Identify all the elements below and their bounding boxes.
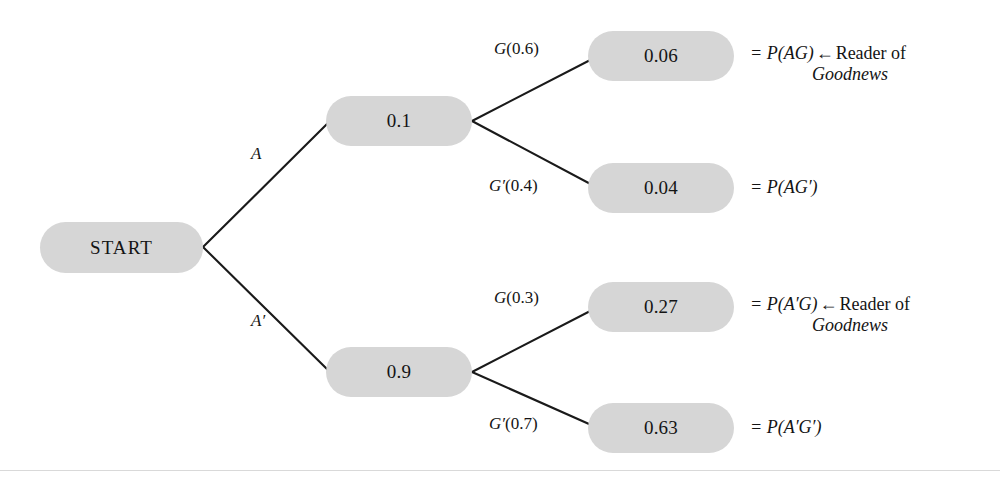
left-arrow-icon: ← [818, 294, 840, 314]
result-label-ag-equation: = P(AG) [750, 43, 814, 63]
edge-label-gprime-lower-prob: (0.7) [505, 414, 538, 433]
edge-aprime-to-aprimeg [472, 307, 598, 372]
result-label-ag-prime: = P(AG′) [750, 177, 818, 198]
edge-label-g-lower-symbol: G [494, 288, 506, 307]
edge-label-gprime-upper-symbol: G′ [489, 176, 505, 195]
edge-label-a-prime-symbol: A′ [251, 311, 265, 330]
node-aprime-g-prime: 0.63 [588, 403, 734, 453]
result-label-aprime-g-note: Reader of [840, 294, 910, 314]
edge-start-to-a [203, 121, 330, 247]
edge-label-a-symbol: A [251, 144, 261, 163]
result-label-aprime-g-prime-equation: = P(A′G′) [750, 417, 822, 437]
edge-label-g-upper-prob: (0.6) [506, 39, 539, 58]
edge-label-g-lower: G(0.3) [494, 288, 539, 308]
probability-tree-diagram: START 0.1 0.9 0.06 0.04 0.27 0.63 A A′ G… [0, 0, 1000, 484]
result-label-aprime-g-equation: = P(A′G) [750, 294, 818, 314]
node-start: START [40, 222, 203, 273]
edge-label-a-prime: A′ [251, 311, 265, 331]
edge-start-to-aprime [203, 247, 330, 372]
edge-label-gprime-lower-symbol: G′ [489, 414, 505, 433]
result-label-aprime-g: = P(A′G)←Reader of Goodnews [750, 294, 910, 336]
node-a: 0.1 [326, 96, 472, 146]
edge-label-gprime-upper: G′(0.4) [489, 176, 538, 196]
page-divider-rule [0, 470, 1000, 471]
node-a-prime: 0.9 [326, 347, 472, 397]
edge-label-gprime-upper-prob: (0.4) [505, 176, 538, 195]
result-label-ag: = P(AG)←Reader of Goodnews [750, 43, 906, 85]
result-label-ag-prime-equation: = P(AG′) [750, 177, 818, 197]
node-aprime-g: 0.27 [588, 282, 734, 332]
node-ag-prime: 0.04 [588, 163, 734, 213]
result-label-aprime-g-publication: Goodnews [750, 315, 910, 336]
edge-label-g-lower-prob: (0.3) [506, 288, 539, 307]
edge-label-g-upper-symbol: G [494, 39, 506, 58]
edge-label-a: A [251, 144, 261, 164]
result-label-aprime-g-prime: = P(A′G′) [750, 417, 822, 438]
result-label-ag-publication: Goodnews [750, 64, 906, 85]
edge-label-gprime-lower: G′(0.7) [489, 414, 538, 434]
result-label-ag-note: Reader of [836, 43, 906, 63]
left-arrow-icon: ← [814, 43, 836, 63]
edge-label-g-upper: G(0.6) [494, 39, 539, 59]
edge-a-to-ag [472, 56, 598, 121]
node-ag: 0.06 [588, 31, 734, 81]
